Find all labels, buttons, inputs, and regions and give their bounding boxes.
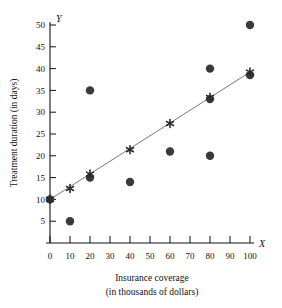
x-tick-label: 20 [86, 251, 96, 261]
x-axis-subtitle: (in thousands of dollars) [106, 287, 199, 298]
y-axis-title: Treatment duration (in days) [9, 79, 20, 188]
observed-point [166, 147, 174, 155]
scatter-plot-figure: 5101520253035404550 01020304050607080901… [0, 0, 282, 308]
x-axis-title: Insurance coverage [115, 273, 189, 283]
y-tick-label: 15 [36, 173, 46, 183]
observed-point [126, 178, 134, 186]
y-axis-tick-labels: 5101520253035404550 [36, 20, 46, 226]
y-tick-label: 45 [36, 42, 46, 52]
observed-data-points [46, 21, 254, 226]
observed-point [246, 21, 254, 29]
y-tick-label: 35 [36, 86, 46, 96]
x-axis-tick-labels: 0102030405060708090100 [48, 251, 258, 261]
regression-line-segment [50, 72, 250, 199]
x-tick-label: 10 [66, 251, 76, 261]
y-axis-letter: Y [56, 13, 63, 24]
observed-point [206, 152, 214, 160]
y-tick-label: 40 [36, 64, 46, 74]
y-tick-label: 10 [36, 195, 46, 205]
x-tick-label: 30 [106, 251, 116, 261]
x-tick-label: 90 [226, 251, 236, 261]
observed-point [206, 64, 214, 72]
y-tick-label: 50 [36, 20, 46, 30]
y-tick-label: 5 [41, 216, 46, 226]
x-axis-ticks [50, 236, 250, 243]
x-tick-label: 60 [166, 251, 176, 261]
x-tick-label: 0 [48, 251, 53, 261]
x-tick-label: 40 [126, 251, 136, 261]
y-tick-label: 30 [36, 107, 46, 117]
x-tick-label: 100 [243, 251, 257, 261]
predicted-point [167, 120, 174, 128]
x-tick-label: 50 [146, 251, 156, 261]
y-tick-label: 20 [36, 151, 46, 161]
y-axis-ticks [50, 25, 56, 221]
x-axis-letter: X [258, 238, 266, 249]
observed-point [66, 217, 74, 225]
regression-line [50, 72, 250, 199]
x-tick-label: 70 [186, 251, 196, 261]
observed-point [86, 86, 94, 94]
plot-canvas: 5101520253035404550 01020304050607080901… [0, 0, 282, 308]
x-tick-label: 80 [206, 251, 216, 261]
y-tick-label: 25 [36, 129, 46, 139]
